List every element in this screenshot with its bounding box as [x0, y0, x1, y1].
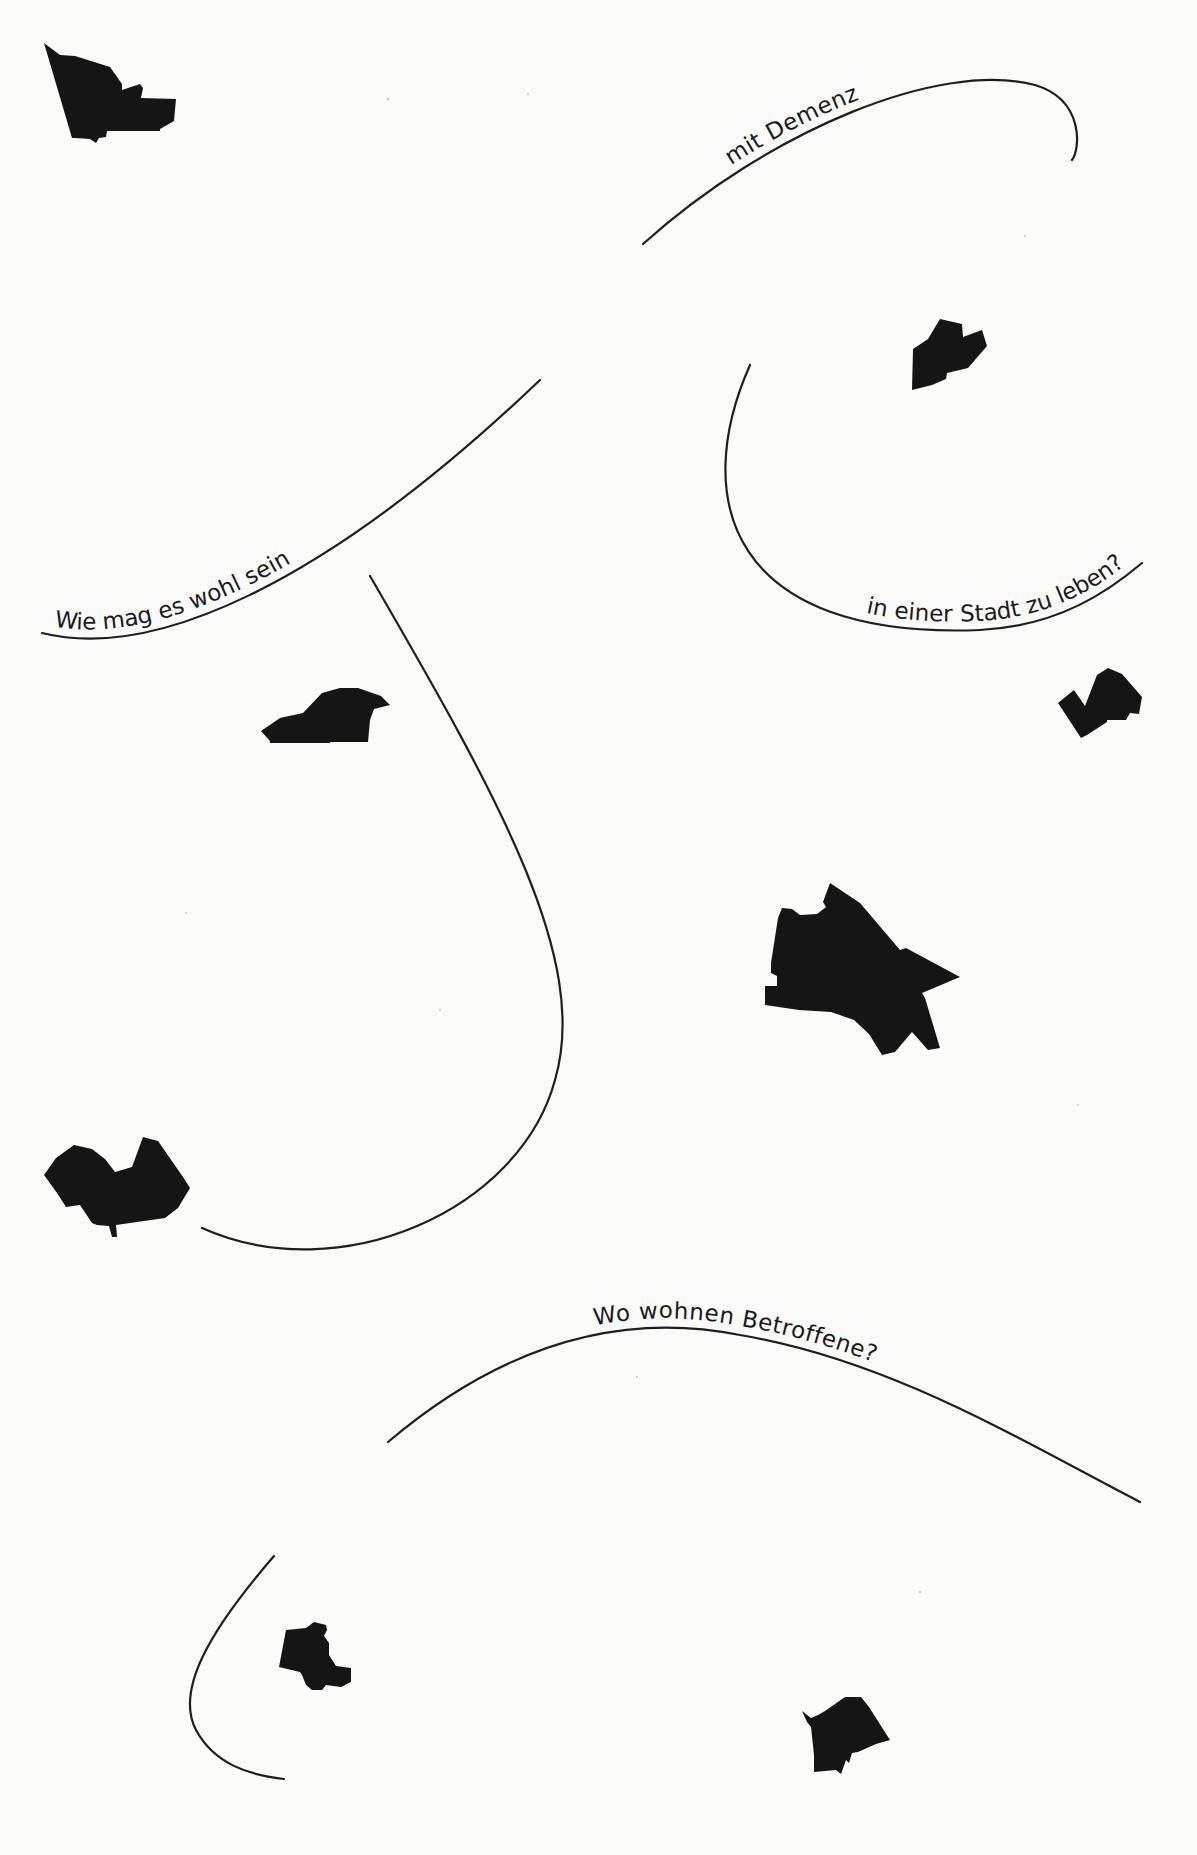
caption-cap1: Wie mag es wohl sein	[54, 544, 294, 634]
poster: Wie mag es wohl seinmit Demenzin einer S…	[0, 0, 1197, 1855]
curve-bottom-left	[190, 1556, 284, 1779]
districts-layer	[44, 43, 1142, 1774]
poster-canvas: Wie mag es wohl seinmit Demenzin einer S…	[0, 0, 1197, 1855]
district-silhouette-district-5	[765, 883, 960, 1055]
paper-texture	[185, 93, 1079, 1593]
district-silhouette-district-3	[1058, 668, 1142, 738]
district-silhouette-district-8	[802, 1697, 890, 1774]
caption-cap3: in einer Stadt zu leben?	[865, 548, 1128, 626]
district-silhouette-district-6	[44, 1137, 190, 1237]
district-silhouette-district-2	[912, 319, 987, 390]
curve-cap1	[42, 380, 540, 639]
caption-cap2: mit Demenz	[720, 80, 862, 170]
curve-cap4	[388, 1328, 1140, 1502]
curve-cap2	[643, 80, 1077, 244]
district-silhouette-district-1	[44, 43, 176, 143]
district-silhouette-district-7	[279, 1622, 351, 1690]
curve-loop-center	[202, 576, 563, 1249]
caption-cap4: Wo wohnen Betroffene?	[591, 1297, 881, 1367]
district-silhouette-district-4	[261, 688, 390, 743]
captions-layer: Wie mag es wohl seinmit Demenzin einer S…	[54, 80, 1128, 1367]
